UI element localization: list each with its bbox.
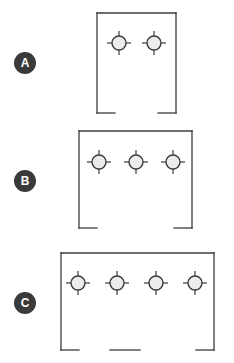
burner-icon: [66, 271, 90, 295]
diagram-canvas: A B C: [0, 0, 234, 363]
burner-icon: [144, 271, 168, 295]
burner-icon: [142, 31, 166, 55]
burner-icon: [183, 271, 207, 295]
burner-icon: [107, 31, 131, 55]
burner-icon: [105, 271, 129, 295]
burner-icon: [124, 150, 148, 174]
option-c-svg: [51, 243, 224, 360]
option-a-badge[interactable]: A: [14, 52, 36, 74]
option-b-badge[interactable]: B: [14, 170, 36, 192]
option-c-badge[interactable]: C: [14, 292, 36, 314]
option-c-cooktop-outline: [51, 243, 224, 360]
option-b-svg: [69, 121, 202, 238]
burner-icon: [161, 150, 185, 174]
option-a-svg: [87, 3, 186, 123]
option-b-cooktop-outline: [69, 121, 202, 238]
option-a-cooktop-outline: [87, 3, 186, 123]
burner-icon: [87, 150, 111, 174]
